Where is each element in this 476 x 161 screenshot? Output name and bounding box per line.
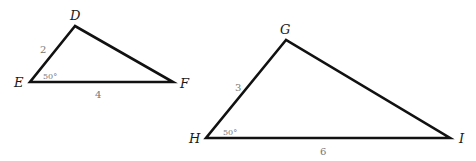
side-hi-length: 6 (320, 146, 326, 157)
triangle-ghi-outline (206, 40, 450, 138)
vertex-label-i: I (458, 131, 465, 146)
similar-triangles-diagram: D E F 2 4 50° G H I 3 6 50° (0, 0, 476, 161)
vertex-label-f: F (179, 76, 190, 91)
triangle-ghi: G H I 3 6 50° (188, 22, 465, 157)
vertex-label-h: H (188, 131, 201, 146)
triangle-def: D E F 2 4 50° (13, 8, 190, 100)
side-de-length: 2 (40, 44, 46, 55)
vertex-label-e: E (13, 75, 24, 90)
side-ef-length: 4 (95, 89, 101, 100)
angle-e-measure: 50° (43, 72, 57, 81)
vertex-label-d: D (69, 8, 81, 23)
side-gh-length: 3 (235, 82, 241, 93)
angle-h-measure: 50° (223, 128, 237, 137)
vertex-label-g: G (280, 22, 290, 37)
